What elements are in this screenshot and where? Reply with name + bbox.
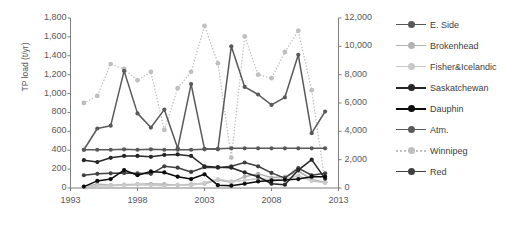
data-point (82, 158, 86, 162)
data-point (95, 184, 99, 188)
data-point (82, 184, 86, 188)
x-axis-tick-label: 1993 (51, 195, 91, 205)
data-point (256, 179, 260, 183)
data-point (216, 147, 220, 151)
legend-item-brokenhead[interactable]: Brokenhead (396, 35, 516, 56)
data-point (135, 173, 139, 177)
data-point (229, 184, 233, 188)
data-point (269, 76, 274, 81)
data-point (269, 178, 273, 182)
data-point (310, 146, 314, 150)
y-axis-left-tick-label: 400 (51, 145, 66, 154)
data-point (243, 146, 247, 150)
data-point (310, 179, 314, 183)
data-point (283, 95, 287, 99)
legend-swatch-icon (396, 82, 426, 94)
data-point (149, 69, 154, 74)
data-point (256, 175, 260, 179)
data-point (310, 158, 314, 162)
data-point (296, 146, 300, 150)
data-point (189, 82, 193, 86)
data-point (256, 72, 261, 77)
data-point (309, 88, 314, 93)
data-point (216, 165, 220, 169)
legend-swatch-icon (396, 61, 426, 73)
data-point (229, 146, 233, 150)
y-axis-left-tick-label: 600 (51, 126, 66, 135)
data-point (149, 147, 153, 151)
data-point (216, 183, 220, 187)
legend-item-red[interactable]: Red (396, 161, 516, 182)
data-point (95, 148, 99, 152)
legend-swatch-icon (396, 103, 426, 115)
data-point (82, 101, 87, 106)
data-point (202, 23, 207, 28)
data-point (189, 148, 193, 152)
legend-item-fisher-icelandic[interactable]: Fisher&Icelandic (396, 56, 516, 77)
data-point (269, 146, 273, 150)
data-point (243, 160, 247, 164)
data-point (310, 175, 314, 179)
series-line (84, 26, 325, 183)
data-point (135, 154, 139, 158)
data-point (323, 181, 327, 185)
data-point (202, 164, 206, 168)
data-point (176, 183, 180, 187)
series-e-side (82, 44, 327, 152)
y-axis-left-tick-label: 1,400 (44, 51, 67, 60)
data-point (256, 92, 260, 96)
data-point (283, 146, 287, 150)
data-point (109, 171, 113, 175)
legend-marker-icon (408, 84, 415, 91)
data-point (229, 166, 233, 170)
y-axis-right-tick-label: 4,000 (345, 126, 368, 135)
legend-item-saskatchewan[interactable]: Saskatchewan (396, 77, 516, 98)
data-point (95, 94, 100, 99)
y-axis-right-tick-label: 10,000 (345, 41, 373, 50)
legend-swatch-icon (396, 40, 426, 52)
data-point (149, 169, 153, 173)
y-axis-left-tick-label: 1,600 (44, 32, 67, 41)
legend-marker-icon (408, 42, 415, 49)
data-point (149, 183, 153, 187)
legend-item-label: Saskatchewan (430, 83, 489, 93)
data-point (149, 155, 153, 159)
data-point (122, 168, 126, 172)
legend-marker-icon (408, 126, 415, 133)
data-point (135, 183, 139, 187)
data-point (323, 175, 327, 179)
legend-item-dauphin[interactable]: Dauphin (396, 98, 516, 119)
data-point (216, 61, 221, 66)
series-line (84, 46, 325, 149)
legend-item-atm-[interactable]: Atm. (396, 119, 516, 140)
y-axis-right-tick-label: 0 (345, 183, 350, 192)
data-point (162, 153, 166, 157)
legend-item-label: Red (430, 167, 447, 177)
data-point (269, 171, 273, 175)
data-point (122, 69, 126, 73)
legend-item-e-side[interactable]: E. Side (396, 14, 516, 35)
data-point (109, 148, 113, 152)
legend-swatch-icon (396, 19, 426, 31)
y-axis-right-tick-label: 2,000 (345, 155, 368, 164)
y-axis-right-tick-label: 12,000 (345, 13, 373, 22)
data-point (162, 128, 167, 133)
data-point (202, 147, 206, 151)
y-axis-left-tick-label: 0 (61, 183, 66, 192)
data-point (189, 170, 193, 174)
data-point (256, 146, 260, 150)
data-point (269, 103, 273, 107)
data-point (135, 148, 139, 152)
legend-item-label: Brokenhead (430, 41, 479, 51)
legend-marker-icon (408, 63, 415, 70)
data-point (283, 178, 287, 182)
data-point (310, 131, 314, 135)
data-point (189, 177, 193, 181)
legend-item-winnipeg[interactable]: Winnipeg (396, 140, 516, 161)
data-point (283, 50, 288, 55)
data-point (95, 126, 99, 130)
x-axis-tick-label: 2003 (185, 195, 225, 205)
data-point (162, 164, 166, 168)
data-point (135, 78, 140, 83)
data-point (243, 170, 247, 174)
